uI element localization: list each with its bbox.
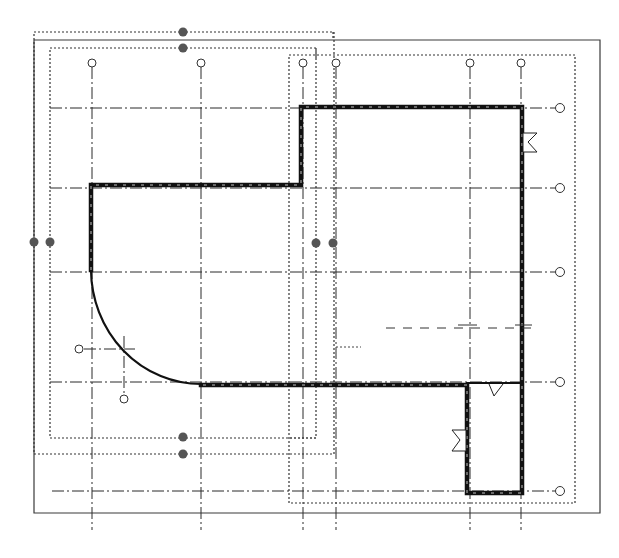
grid-bubble-icon[interactable] <box>556 104 565 113</box>
grid-bubble-icon[interactable] <box>556 487 565 496</box>
drag-handle-icon[interactable] <box>179 450 188 459</box>
grid-arc-ref-vertical[interactable] <box>120 336 128 403</box>
drag-handle-icon[interactable] <box>179 433 188 442</box>
grid-4[interactable] <box>332 59 340 530</box>
wall-curved[interactable] <box>91 270 201 384</box>
floor-plan-canvas[interactable] <box>0 0 619 558</box>
door-annex-north[interactable] <box>489 384 503 396</box>
drag-handle-icon[interactable] <box>312 239 321 248</box>
drag-handles <box>30 28 338 459</box>
grid-bubble-icon[interactable] <box>332 59 340 67</box>
drag-handle-icon[interactable] <box>46 238 55 247</box>
drag-handle-icon[interactable] <box>329 239 338 248</box>
grid-bubble-icon[interactable] <box>556 268 565 277</box>
drag-handle-icon[interactable] <box>30 238 39 247</box>
grid-bubble-icon[interactable] <box>517 59 525 67</box>
door-annex-west[interactable] <box>452 430 466 451</box>
grid-bubble-icon[interactable] <box>120 395 128 403</box>
grid-C[interactable] <box>50 268 565 277</box>
door-east-upper[interactable] <box>523 133 537 152</box>
grid-bubble-icon[interactable] <box>299 59 307 67</box>
door-swing-icon <box>489 384 503 396</box>
grid-bubble-icon[interactable] <box>556 378 565 387</box>
drag-handle-icon[interactable] <box>179 28 188 37</box>
grid-bubble-icon[interactable] <box>556 184 565 193</box>
grid-2[interactable] <box>197 59 205 530</box>
grid-bubble-icon[interactable] <box>466 59 474 67</box>
drag-handle-icon[interactable] <box>179 44 188 53</box>
grid-lines <box>50 59 565 530</box>
grid-bubble-icon[interactable] <box>197 59 205 67</box>
grid-bubble-icon[interactable] <box>88 59 96 67</box>
grid-bubble-icon[interactable] <box>75 345 83 353</box>
crop-region-frame <box>34 40 600 513</box>
annotation-crop-right <box>289 55 575 503</box>
door-swing-icon <box>523 133 537 152</box>
door-swing-icon <box>452 430 466 451</box>
